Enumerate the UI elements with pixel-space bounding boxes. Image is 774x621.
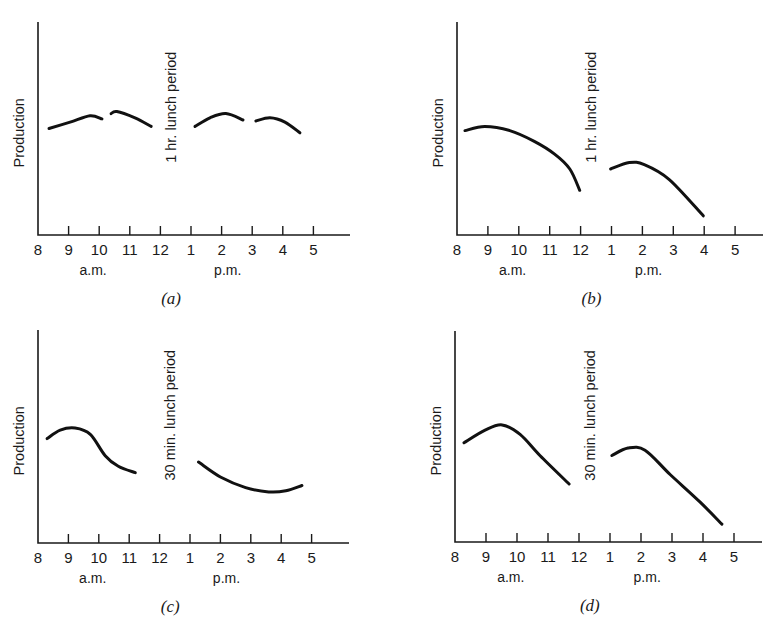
x-tick-label: 1 [187,241,195,258]
x-tick-label: 1 [606,548,614,565]
x-tick-label: 12 [151,549,168,566]
x-tick-label: 9 [64,549,72,566]
x-tick-label: 11 [542,241,558,258]
am-label: a.m. [497,569,524,585]
pm-label: p.m. [634,569,661,585]
am-label: a.m. [79,262,106,278]
production-curve [611,162,704,216]
x-tick-label: 2 [216,549,224,566]
production-curve [199,462,302,492]
x-tick-label: 10 [91,241,108,258]
am-label: a.m. [79,570,106,586]
x-tick-label: 12 [571,548,588,565]
x-tick-label: 8 [34,549,42,566]
x-tick-label: 10 [509,548,526,565]
x-tick-label: 4 [700,241,708,258]
lunch-period-annotation: 1 hr. lunch period [583,52,599,163]
x-tick-label: 3 [669,241,677,258]
panel-d: 8910111212345a.m.p.m.Production30 min. l… [428,331,762,615]
x-tick-label: 8 [451,548,459,565]
x-tick-label: 5 [309,241,317,258]
lunch-period-annotation: 30 min. lunch period [162,350,178,481]
x-tick-label: 2 [637,548,645,565]
x-tick-label: 10 [510,241,527,258]
panel-caption: (d) [580,596,600,615]
panel-b: 8910111212345a.m.p.m.Production1 hr. lun… [430,22,763,308]
production-curves-figure: 8910111212345a.m.p.m.Production1 hr. lun… [0,0,774,621]
x-tick-label: 3 [668,548,676,565]
y-axis-label: Production [430,98,446,167]
panel-caption: (b) [582,289,602,308]
x-tick-label: 9 [482,548,490,565]
x-tick-label: 2 [217,241,225,258]
x-tick-label: 12 [572,241,589,258]
pm-label: p.m. [214,262,241,278]
x-tick-label: 4 [277,549,285,566]
x-tick-label: 8 [453,241,461,258]
axes [38,22,350,235]
production-curve [464,425,569,484]
production-curve [49,116,102,129]
pm-label: p.m. [635,262,662,278]
production-curve [111,111,151,126]
x-tick-label: 5 [730,548,738,565]
x-tick-label: 5 [307,549,315,566]
y-axis-label: Production [428,406,444,475]
pm-label: p.m. [213,570,240,586]
am-label: a.m. [499,262,526,278]
lunch-period-annotation: 1 hr. lunch period [163,52,179,163]
x-tick-label: 4 [279,241,287,258]
x-tick-label: 10 [90,549,107,566]
production-curve [465,126,580,190]
x-tick-label: 2 [638,241,646,258]
x-tick-label: 11 [121,549,137,566]
x-tick-label: 12 [152,241,169,258]
x-tick-label: 3 [247,549,255,566]
y-axis-label: Production [11,406,27,475]
x-tick-label: 4 [699,548,707,565]
x-tick-label: 1 [607,241,615,258]
y-axis-label: Production [11,98,27,167]
x-tick-label: 3 [248,241,256,258]
lunch-period-annotation: 30 min. lunch period [582,350,598,481]
panel-caption: (c) [161,597,180,616]
x-tick-label: 11 [122,241,138,258]
production-curve [256,118,300,133]
production-curve [612,447,722,524]
x-tick-label: 5 [731,241,739,258]
panel-caption: (a) [161,289,181,308]
production-curve [195,114,243,127]
axes [38,330,349,543]
axes [455,331,762,542]
x-tick-label: 9 [64,241,72,258]
panel-c: 8910111212345a.m.p.m.Production30 min. l… [11,330,349,616]
production-curve [47,428,135,473]
x-tick-label: 8 [34,241,42,258]
x-tick-label: 1 [186,549,194,566]
x-tick-label: 9 [484,241,492,258]
panel-a: 8910111212345a.m.p.m.Production1 hr. lun… [11,22,350,308]
x-tick-label: 11 [540,548,556,565]
